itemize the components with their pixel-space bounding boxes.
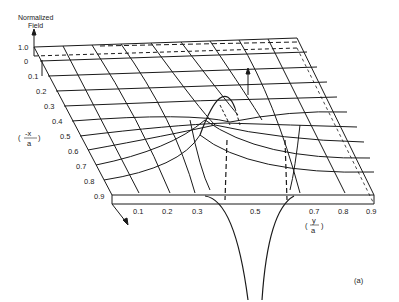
z-axis-label-1: Normalized — [18, 14, 54, 21]
x-tick: 0.7 — [76, 162, 86, 171]
field-dip-right — [262, 196, 294, 300]
y-tick: 0.7 — [309, 207, 319, 216]
surface-plot: Normalized Field 1.0 0 0.1 0.2 0.3 0.4 0… — [0, 0, 399, 302]
y-axis-label-den: a — [311, 226, 316, 235]
y-axis-label-num: y — [312, 216, 316, 225]
x-tick: 0.9 — [94, 192, 104, 201]
x-tick: 0.8 — [84, 177, 94, 186]
x-tick: 0.6 — [68, 147, 78, 156]
x-tick: 0.2 — [36, 87, 46, 96]
x-tick: 0.4 — [52, 117, 62, 126]
z-axis-label-2: Field — [28, 22, 43, 29]
svg-text:(: ( — [305, 221, 308, 230]
x-tick: 0.5 — [60, 132, 70, 141]
y-tick: 0.5 — [250, 207, 260, 216]
panel-label: (a) — [354, 276, 364, 285]
z-tick: 0 — [24, 57, 28, 66]
x-axis-label-open: ( — [18, 133, 21, 142]
y-tick: 0.2 — [162, 207, 172, 216]
x-axis-label-num: -x — [25, 129, 31, 138]
x-axis-label-den: a — [27, 139, 32, 148]
y-tick: 0.3 — [192, 207, 202, 216]
field-dip-left — [205, 196, 248, 300]
x-tick: 0.1 — [28, 72, 38, 81]
field-peak — [200, 96, 235, 135]
svg-text:): ) — [38, 133, 41, 142]
y-tick: 0.1 — [133, 207, 143, 216]
y-tick: 0.8 — [338, 207, 348, 216]
svg-text:): ) — [321, 221, 324, 230]
x-tick: 0.3 — [44, 102, 54, 111]
z-tick: 1.0 — [18, 43, 28, 52]
y-tick: 0.9 — [366, 207, 376, 216]
